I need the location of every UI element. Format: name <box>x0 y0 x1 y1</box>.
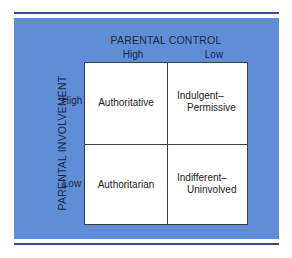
grid-horizontal-divider <box>85 144 247 145</box>
column-label-high: High <box>113 49 153 60</box>
parenting-style-grid: Authoritative Indulgent– Permissive Auth… <box>84 62 248 225</box>
cell-indifferent-uninvolved: Indifferent– Uninvolved <box>177 172 236 196</box>
cell-line-1: Indulgent– <box>177 90 224 101</box>
cell-authoritative: Authoritative <box>85 97 167 109</box>
top-rule <box>14 12 279 14</box>
cell-line-1: Indifferent– <box>177 172 227 183</box>
column-label-low: Low <box>194 49 234 60</box>
cell-authoritarian: Authoritarian <box>85 179 167 191</box>
cell-line-2: Uninvolved <box>177 184 236 196</box>
cell-indulgent-permissive: Indulgent– Permissive <box>177 90 236 114</box>
y-axis-title: PARENTAL INVOLVEMENT <box>56 63 70 223</box>
bottom-rule <box>14 243 279 245</box>
x-axis-title: PARENTAL CONTROL <box>84 34 248 46</box>
row-label-high: High <box>60 95 84 106</box>
row-label-low: Low <box>60 178 84 189</box>
cell-line-2: Permissive <box>177 102 236 114</box>
